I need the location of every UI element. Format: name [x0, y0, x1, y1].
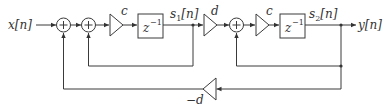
gain-neg-d-label: −d [186, 93, 204, 107]
adder-3 [230, 18, 244, 32]
gain-d-label: d [211, 4, 219, 18]
input-label: x[n] [8, 18, 32, 32]
adder-1 [57, 18, 71, 32]
wire-s2-to-neg-d [217, 66, 342, 89]
gain-c-1-label: c [121, 4, 128, 18]
gain-c-2-label: c [266, 4, 273, 18]
output-label: y[n] [357, 18, 382, 32]
signal-flow-diagram: x[n] c z −1 s1[n] d [0, 0, 391, 109]
state-s2-label: s2[n] [309, 7, 338, 23]
delay-z-1-base: z [142, 21, 150, 35]
adder-2 [82, 18, 96, 32]
delay-z-2-base: z [284, 21, 292, 35]
state-s1-label: s1[n] [170, 7, 199, 23]
delay-z-1: z −1 [138, 14, 163, 38]
delay-z-2-exponent: −1 [292, 18, 304, 27]
delay-z-2: z −1 [280, 14, 305, 38]
gain-neg-d [203, 78, 216, 100]
delay-z-1-exponent: −1 [150, 18, 162, 27]
wire-neg-d-adder1 [64, 33, 204, 89]
